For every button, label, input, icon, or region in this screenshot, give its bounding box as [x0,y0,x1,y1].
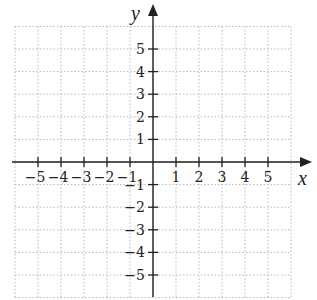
x-axis-arrow-icon [300,157,312,167]
y-tick-label: −1 [124,177,145,193]
y-tick-label: 1 [136,131,145,147]
x-tick-label: 5 [264,169,273,185]
y-axis-label: y [129,2,140,25]
y-axis-arrow-icon [148,4,158,16]
axes [12,4,312,297]
y-tick-label: −4 [124,244,145,260]
y-tick-label: −5 [124,267,145,283]
x-axis-label: x [297,167,307,189]
x-tick-label: 3 [218,169,227,185]
y-tick-label: −3 [124,222,145,238]
y-tick-label: 2 [136,109,145,125]
y-tick-label: 3 [136,86,145,102]
x-tick-label: 4 [241,169,250,185]
x-tick-label: −2 [94,169,115,185]
x-tick-label: 2 [195,169,204,185]
x-tick-label: −5 [25,169,46,185]
coordinate-plane: −5−4−3−2−11234554321−1−2−3−4−5 x y [0,0,317,300]
x-tick-label: −4 [48,169,69,185]
y-tick-label: 4 [136,64,145,80]
x-tick-label: 1 [172,169,181,185]
x-tick-label: −3 [71,169,92,185]
y-tick-label: 5 [136,41,145,57]
y-tick-label: −2 [124,199,145,215]
